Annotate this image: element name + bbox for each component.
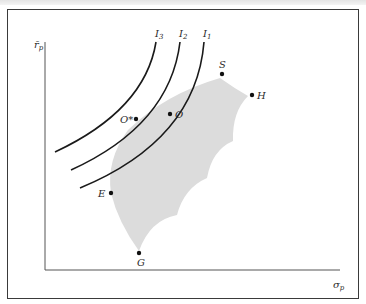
point-g-marker (137, 251, 141, 255)
curve-label-i1: I1 (202, 28, 211, 41)
point-o-star-label: O* (120, 114, 133, 125)
point-s-label: S (219, 59, 226, 70)
y-axis-label: r̄p (34, 39, 44, 52)
curve-label-i3: I3 (154, 28, 164, 41)
point-h-marker (250, 93, 254, 97)
point-g-label: G (137, 257, 145, 268)
point-o-marker (168, 112, 172, 116)
point-e-label: E (97, 188, 106, 199)
point-e-marker (109, 191, 113, 195)
point-s-marker (220, 72, 224, 76)
x-axis-label: σp (333, 279, 345, 292)
point-h-label: H (256, 90, 266, 101)
curve-label-i2: I2 (178, 28, 188, 41)
point-o-label: O (175, 109, 183, 120)
feasible-set-region (110, 78, 248, 251)
point-o-star-marker (134, 117, 138, 121)
diagram-canvas: S H O* O E G I3 I2 I1 r̄p σp (0, 0, 366, 304)
